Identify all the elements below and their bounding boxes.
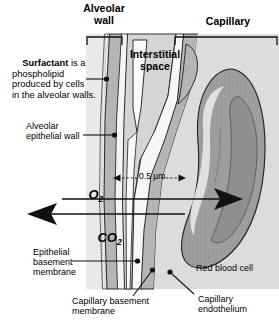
label-oxygen: O2 (74, 173, 103, 217)
annotation-capillary-endothelium: Capillary endothelium (198, 294, 272, 314)
annotation-red-blood-cell: Red blood cell (196, 263, 276, 273)
oxygen-subscript: 2 (99, 194, 104, 204)
oxygen-symbol: O (88, 187, 98, 202)
label-interstitial-space: Interstitial space (126, 49, 184, 73)
label-carbon-dioxide: CO2 (83, 216, 122, 260)
annotation-capillary-basement-membrane: Capillary basement membrane (72, 296, 186, 316)
annotation-surfactant: Surfactant is a phospholipid produced by… (12, 48, 108, 110)
dimension-label-thickness: 0.5 µm (139, 172, 163, 182)
diagram-canvas: Alveolar wall Capillary Interstitial spa… (0, 0, 279, 327)
carbon-dioxide-subscript: 2 (117, 237, 122, 247)
surfactant-bold-word: Surfactant (22, 58, 68, 68)
annotation-alveolar-epithelial-wall: Alveolar epithelial wall (26, 121, 98, 141)
heading-capillary: Capillary (183, 16, 273, 28)
heading-alveolar-wall: Alveolar wall (72, 3, 136, 27)
carbon-dioxide-symbol: CO (97, 230, 117, 245)
